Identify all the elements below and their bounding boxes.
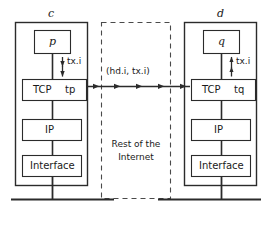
host-d-port-label: tq xyxy=(234,85,244,95)
host-c-tcp-label: TCP xyxy=(33,85,52,95)
host-c-label: c xyxy=(48,8,54,19)
host-d-process-label: q xyxy=(218,36,225,47)
host-c-process-label: p xyxy=(49,36,56,47)
diagram-canvas xyxy=(0,0,267,232)
segment-label: (hd.i, tx.i) xyxy=(106,67,150,76)
host-c-txi-label: tx.i xyxy=(67,57,81,66)
internet-cloud-label-line1: Rest of the xyxy=(104,140,168,149)
internet-cloud-boundary xyxy=(102,23,171,199)
host-c-ip-label: IP xyxy=(45,125,54,135)
host-c-interface-label: Interface xyxy=(30,161,75,171)
host-c-port-label: tp xyxy=(65,85,75,95)
host-d-label: d xyxy=(217,8,224,19)
internet-cloud-label-line2: Internet xyxy=(104,153,168,162)
host-d-interface-label: Interface xyxy=(199,161,244,171)
host-d-tcp-label: TCP xyxy=(202,85,221,95)
host-d-ip-label: IP xyxy=(214,125,223,135)
network-diagram: c d p tx.i TCP tp IP Interface q tx.i TC… xyxy=(0,0,267,232)
host-d-txi-label: tx.i xyxy=(236,57,250,66)
